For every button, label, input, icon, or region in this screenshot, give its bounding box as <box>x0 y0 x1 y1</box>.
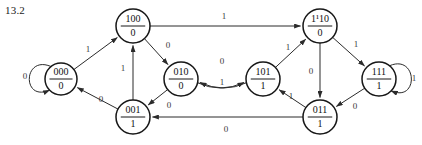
state-output: 1 <box>261 80 266 91</box>
edge-label-100-to-010: 0 <box>166 40 171 50</box>
edge-label-110-to-111: 1 <box>354 39 359 49</box>
state-output: 0 <box>179 80 184 91</box>
state-node-101[interactable]: 1011 <box>246 62 280 96</box>
edge-label-111-to-011: 0 <box>353 101 358 111</box>
edge-label-111-to-111: 1 <box>412 73 417 83</box>
state-node-011[interactable]: 0111 <box>303 100 337 134</box>
state-label: 1¹10 <box>311 13 329 24</box>
edge-110-to-111 <box>332 37 365 66</box>
edge-000-to-100 <box>73 38 117 71</box>
edge-label-011-to-101: 1 <box>289 91 294 101</box>
state-output: 0 <box>59 80 64 91</box>
state-node-000[interactable]: 0000 <box>45 63 77 95</box>
edge-label-001-to-000: 0 <box>99 94 104 104</box>
state-output: 1 <box>377 80 382 91</box>
state-output: 1 <box>131 118 136 129</box>
state-label: 000 <box>54 66 69 77</box>
edge-111-to-011 <box>336 88 365 107</box>
state-output: 0 <box>318 27 323 38</box>
state-label: 100 <box>126 13 141 24</box>
edge-labels-layer: 0101100101101010 <box>23 11 417 134</box>
edge-label-010-to-101: 1 <box>220 77 225 87</box>
state-node-110[interactable]: 1¹100 <box>303 9 337 43</box>
state-label: 011 <box>313 104 328 115</box>
edge-label-000-to-000: 0 <box>23 71 28 81</box>
figure-container: 13.2 00001000010000111¹100101111110111 0… <box>0 0 422 145</box>
state-label: 101 <box>256 66 271 77</box>
state-diagram: 00001000010000111¹100101111110111 010110… <box>0 0 422 145</box>
edge-label-011-to-001: 0 <box>224 124 229 134</box>
nodes-layer: 00001000010000111¹100101111110111 <box>45 9 396 134</box>
edge-label-100-to-110: 1 <box>222 11 227 21</box>
state-output: 1 <box>318 118 323 129</box>
edge-path <box>148 89 168 105</box>
edge-path <box>73 38 117 71</box>
state-node-001[interactable]: 0011 <box>116 100 150 134</box>
state-label: 111 <box>372 66 386 77</box>
edge-label-101-to-010: 0 <box>220 56 225 66</box>
state-node-100[interactable]: 1000 <box>116 9 150 43</box>
state-node-010[interactable]: 0100 <box>164 62 198 96</box>
edge-path <box>336 88 365 107</box>
edge-label-101-to-110: 1 <box>286 42 291 52</box>
edge-label-001-to-100: 1 <box>121 63 126 73</box>
edge-path <box>144 38 168 65</box>
edge-100-to-010 <box>144 38 168 65</box>
state-label: 010 <box>174 66 189 77</box>
edge-label-000-to-100: 1 <box>86 44 91 54</box>
edge-010-to-001 <box>148 89 168 105</box>
edge-path <box>332 37 365 66</box>
state-node-111[interactable]: 1111 <box>362 62 396 96</box>
state-output: 0 <box>131 27 136 38</box>
edge-label-010-to-001: 0 <box>167 100 172 110</box>
edge-label-110-to-011: 0 <box>309 66 314 76</box>
state-label: 001 <box>126 104 141 115</box>
